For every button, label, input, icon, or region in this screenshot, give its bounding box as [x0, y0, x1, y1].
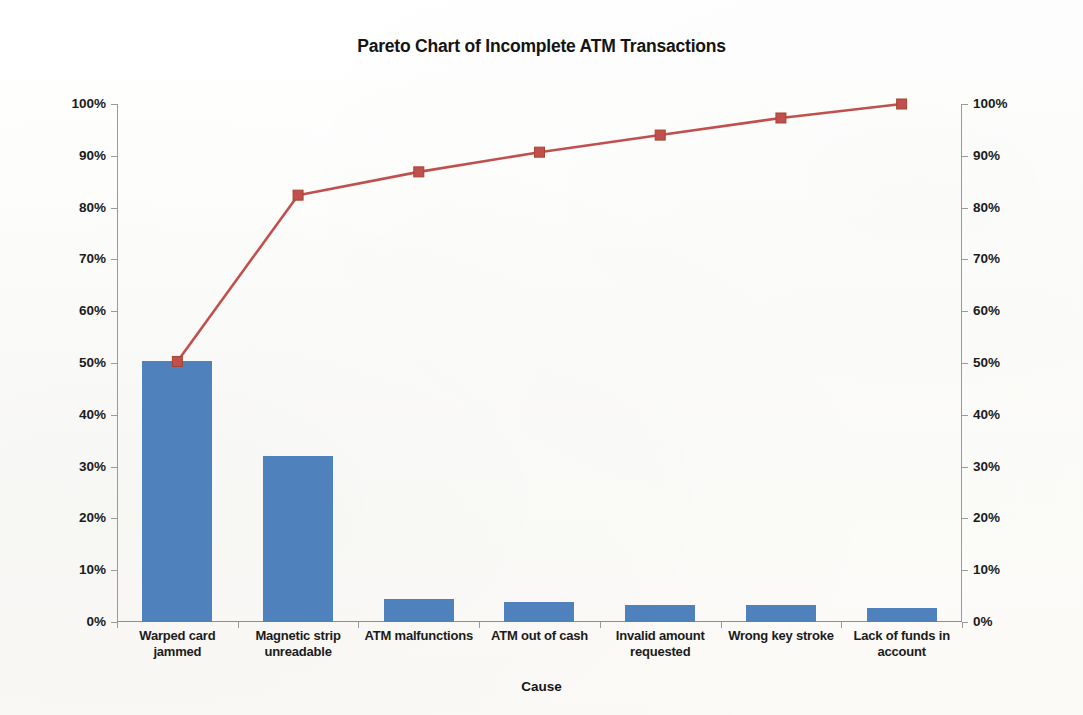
line-marker	[776, 113, 786, 123]
right-axis-tick	[962, 518, 968, 519]
category-label: Invalid amount requested	[600, 626, 721, 674]
left-axis-tick-label: 60%	[79, 304, 106, 318]
cumulative-line-series	[117, 104, 962, 622]
right-axis-tick-label: 30%	[973, 460, 1000, 474]
category-axis-labels: Warped card jammedMagnetic strip unreada…	[117, 626, 962, 674]
category-label: ATM out of cash	[479, 626, 600, 674]
right-axis-tick-label: 70%	[973, 252, 1000, 266]
chart-title: Pareto Chart of Incomplete ATM Transacti…	[0, 36, 1083, 57]
left-axis-tick-label: 20%	[79, 511, 106, 525]
pareto-chart: Pareto Chart of Incomplete ATM Transacti…	[0, 0, 1083, 715]
line-marker	[414, 167, 424, 177]
left-axis-tick-label: 30%	[79, 460, 106, 474]
right-axis-tick	[962, 467, 968, 468]
line-marker	[293, 190, 303, 200]
line-marker	[172, 356, 182, 366]
right-axis-tick-label: 100%	[973, 97, 1008, 111]
right-axis-tick-label: 50%	[973, 356, 1000, 370]
category-label: Wrong key stroke	[721, 626, 842, 674]
right-axis-tick	[962, 570, 968, 571]
left-axis-tick-label: 0%	[86, 615, 106, 629]
right-axis-tick-label: 10%	[973, 563, 1000, 577]
right-axis-tick-label: 80%	[973, 201, 1000, 215]
right-axis-tick-label: 60%	[973, 304, 1000, 318]
line-marker	[897, 99, 907, 109]
right-axis-tick-label: 20%	[973, 511, 1000, 525]
left-axis-tick-label: 50%	[79, 356, 106, 370]
line-marker	[655, 130, 665, 140]
right-axis-tick	[962, 156, 968, 157]
cumulative-line	[177, 104, 901, 361]
right-axis-tick	[962, 259, 968, 260]
category-label: ATM malfunctions	[358, 626, 479, 674]
plot-area: 0%10%20%30%40%50%60%70%80%90%100% 0%10%2…	[117, 104, 962, 622]
category-label: Lack of funds in account	[841, 626, 962, 674]
left-axis-tick-label: 80%	[79, 201, 106, 215]
right-axis-tick	[962, 104, 968, 105]
right-axis-tick	[962, 363, 968, 364]
right-axis-tick-label: 40%	[973, 408, 1000, 422]
left-axis-tick-label: 90%	[79, 149, 106, 163]
left-axis-tick-label: 10%	[79, 563, 106, 577]
left-axis-tick-label: 70%	[79, 252, 106, 266]
right-axis-tick	[962, 208, 968, 209]
category-label: Magnetic strip unreadable	[238, 626, 359, 674]
right-axis-tick-label: 90%	[973, 149, 1000, 163]
left-axis-tick-label: 100%	[71, 97, 106, 111]
right-axis-tick-label: 0%	[973, 615, 993, 629]
right-axis-tick	[962, 311, 968, 312]
right-axis-tick	[962, 415, 968, 416]
category-label: Warped card jammed	[117, 626, 238, 674]
x-axis-title: Cause	[0, 679, 1083, 694]
left-axis-tick-label: 40%	[79, 408, 106, 422]
line-marker	[535, 147, 545, 157]
category-tick	[962, 622, 963, 628]
